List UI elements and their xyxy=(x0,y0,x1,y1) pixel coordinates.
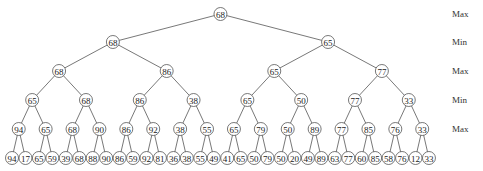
tree-node: 68 xyxy=(66,123,79,136)
tree-node: 33 xyxy=(402,94,415,107)
tree-node: 92 xyxy=(147,123,160,136)
node-value: 65 xyxy=(28,96,38,106)
leaf-node: 59 xyxy=(127,152,140,165)
tree-node: 50 xyxy=(295,94,308,107)
node-value: 36 xyxy=(169,154,179,164)
tree-node: 68 xyxy=(106,36,119,49)
leaf-node: 50 xyxy=(248,152,261,165)
node-value: 79 xyxy=(263,154,273,164)
node-value: 33 xyxy=(424,154,434,164)
leaf-node: 17 xyxy=(19,152,32,165)
node-value: 85 xyxy=(364,125,374,135)
node-value: 50 xyxy=(250,154,260,164)
node-value: 79 xyxy=(256,125,266,135)
node-value: 58 xyxy=(384,154,394,164)
leaf-node: 68 xyxy=(73,152,86,165)
tree-edge xyxy=(328,42,382,71)
leaf-node: 41 xyxy=(221,152,234,165)
leaf-node: 49 xyxy=(301,152,314,165)
leaf-node: 92 xyxy=(140,152,153,165)
node-value: 77 xyxy=(377,67,387,77)
leaf-node: 58 xyxy=(382,152,395,165)
tree-node: 38 xyxy=(174,123,187,136)
node-value: 63 xyxy=(330,154,340,164)
tree-node: 68 xyxy=(53,65,66,78)
node-value: 65 xyxy=(243,96,253,106)
node-value: 39 xyxy=(61,154,71,164)
node-value: 38 xyxy=(189,96,199,106)
leaf-node: 55 xyxy=(194,152,207,165)
node-value: 59 xyxy=(48,154,58,164)
node-value: 94 xyxy=(8,154,18,164)
node-value: 68 xyxy=(68,125,78,135)
node-value: 50 xyxy=(297,96,307,106)
node-value: 90 xyxy=(95,125,105,135)
leaf-node: 86 xyxy=(113,152,126,165)
tree-edge xyxy=(113,14,221,42)
level-label-max: Max xyxy=(452,9,469,19)
tree-node: 65 xyxy=(241,94,254,107)
node-value: 92 xyxy=(149,125,158,135)
leaf-node: 33 xyxy=(422,152,435,165)
leaf-node: 60 xyxy=(355,152,368,165)
node-value: 49 xyxy=(209,154,219,164)
tree-node: 33 xyxy=(416,123,429,136)
tree-node: 79 xyxy=(254,123,267,136)
node-value: 50 xyxy=(277,154,287,164)
tree-node: 86 xyxy=(160,65,173,78)
node-value: 89 xyxy=(317,154,327,164)
node-value: 76 xyxy=(398,154,408,164)
leaf-node: 65 xyxy=(234,152,247,165)
node-value: 94 xyxy=(14,125,24,135)
node-value: 55 xyxy=(203,125,213,135)
node-value: 65 xyxy=(34,154,44,164)
leaf-node: 81 xyxy=(153,152,166,165)
node-value: 50 xyxy=(283,125,293,135)
node-value: 33 xyxy=(404,96,414,106)
node-value: 65 xyxy=(236,154,246,164)
node-value: 20 xyxy=(290,154,300,164)
node-value: 77 xyxy=(344,154,354,164)
node-value: 65 xyxy=(324,38,334,48)
leaf-node: 89 xyxy=(315,152,328,165)
node-value: 59 xyxy=(129,154,139,164)
tree-node: 68 xyxy=(214,8,227,21)
tree-node: 85 xyxy=(362,123,375,136)
leaf-node: 79 xyxy=(261,152,274,165)
tree-node: 77 xyxy=(375,65,388,78)
leaf-node: 20 xyxy=(288,152,301,165)
node-value: 33 xyxy=(418,125,428,135)
node-value: 12 xyxy=(411,154,420,164)
leaf-node: 12 xyxy=(409,152,422,165)
node-value: 38 xyxy=(176,125,186,135)
leaf-node: 59 xyxy=(46,152,59,165)
node-value: 68 xyxy=(108,38,118,48)
node-value: 88 xyxy=(88,154,98,164)
leaf-node: 36 xyxy=(167,152,180,165)
node-value: 68 xyxy=(75,154,85,164)
node-value: 68 xyxy=(216,10,226,20)
node-value: 86 xyxy=(122,125,132,135)
node-value: 17 xyxy=(21,154,31,164)
leaf-node: 76 xyxy=(396,152,409,165)
minimax-tree: 6868656886657765688638655077339465689086… xyxy=(0,0,483,171)
node-value: 90 xyxy=(102,154,112,164)
tree-node: 86 xyxy=(120,123,133,136)
node-value: 55 xyxy=(196,154,206,164)
node-value: 60 xyxy=(357,154,367,164)
tree-node: 86 xyxy=(133,94,146,107)
tree-node: 89 xyxy=(308,123,321,136)
node-value: 65 xyxy=(229,125,239,135)
tree-node: 65 xyxy=(268,65,281,78)
leaf-node: 85 xyxy=(369,152,382,165)
tree-node: 94 xyxy=(12,123,25,136)
tree-edge xyxy=(274,42,328,71)
node-value: 86 xyxy=(162,67,172,77)
leaf-node: 39 xyxy=(59,152,72,165)
node-value: 65 xyxy=(41,125,51,135)
tree-node: 50 xyxy=(281,123,294,136)
tree-node: 77 xyxy=(335,123,348,136)
level-label-max: Max xyxy=(452,66,469,76)
tree-edge xyxy=(59,42,113,71)
tree-edge xyxy=(220,14,328,42)
